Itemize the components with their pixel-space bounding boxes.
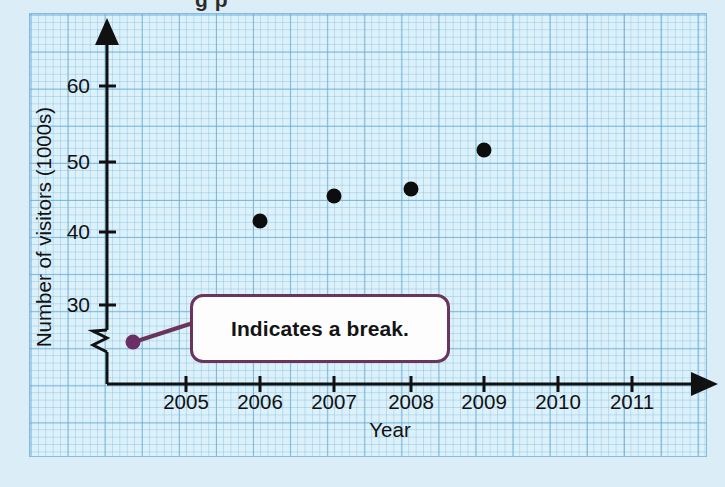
x-axis-label: Year xyxy=(330,418,450,442)
y-axis xyxy=(93,42,107,384)
y-tick-label-50: 50 xyxy=(44,150,90,174)
y-tick-label-30: 30 xyxy=(44,293,90,317)
x-tick-label-2009: 2009 xyxy=(446,390,522,414)
data-point xyxy=(404,182,419,197)
break-callout-text: Indicates a break. xyxy=(231,317,409,341)
callout-leader-line xyxy=(126,322,197,350)
graph-screenshot: g p xyxy=(0,0,725,487)
data-point xyxy=(327,189,342,204)
data-points xyxy=(253,143,492,229)
x-tick-label-2011: 2011 xyxy=(594,390,670,414)
break-callout-box: Indicates a break. xyxy=(190,294,450,363)
data-point xyxy=(477,143,492,158)
x-tick-label-2006: 2006 xyxy=(222,390,298,414)
axis-break-zigzag xyxy=(93,330,107,352)
x-tick-label-2005: 2005 xyxy=(148,390,224,414)
y-tick-label-40: 40 xyxy=(44,220,90,244)
data-point xyxy=(253,214,268,229)
x-tick-label-2007: 2007 xyxy=(296,390,372,414)
x-tick-label-2010: 2010 xyxy=(520,390,596,414)
x-tick-label-2008: 2008 xyxy=(373,390,449,414)
y-tick-label-60: 60 xyxy=(44,74,90,98)
